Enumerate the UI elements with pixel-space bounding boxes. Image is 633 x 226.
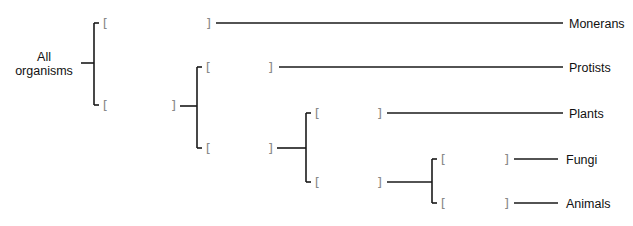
root-label-line1: All	[37, 50, 51, 64]
blank-open-bracket: [	[101, 98, 109, 113]
blank-close-bracket: ]	[205, 16, 213, 31]
blank-open-bracket: [	[101, 16, 109, 31]
node-root-connector	[81, 23, 99, 105]
node-3-connector	[277, 113, 311, 182]
blank-open-bracket: [	[204, 141, 212, 156]
leaf-label-monerans: Monerans	[569, 17, 625, 31]
blank-open-bracket: [	[313, 175, 321, 190]
leaf-label-animals: Animals	[566, 197, 610, 211]
blank-close-bracket: ]	[170, 98, 178, 113]
blank-close-bracket: ]	[503, 152, 511, 167]
leaf-label-plants: Plants	[569, 107, 604, 121]
leaf-label-protists: Protists	[569, 61, 611, 75]
blank-open-bracket: [	[204, 60, 212, 75]
blank-close-bracket: ]	[503, 196, 511, 211]
blank-close-bracket: ]	[267, 60, 275, 75]
node-4-connector	[387, 159, 437, 203]
blank-open-bracket: [	[313, 106, 321, 121]
leaf-label-fungi: Fungi	[566, 153, 597, 167]
blank-open-bracket: [	[439, 196, 447, 211]
blank-open-bracket: [	[439, 152, 447, 167]
node-2-connector	[180, 67, 202, 148]
cladogram-diagram: All organisms [ ] Monerans [ ] [ ] Proti…	[0, 0, 633, 226]
blank-close-bracket: ]	[376, 106, 384, 121]
blank-close-bracket: ]	[376, 175, 384, 190]
blank-close-bracket: ]	[267, 141, 275, 156]
root-label-line2: organisms	[15, 64, 73, 78]
